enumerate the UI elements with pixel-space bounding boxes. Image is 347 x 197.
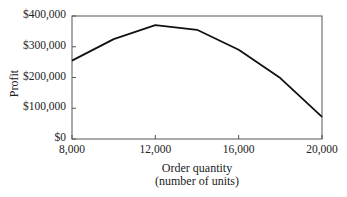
y-tick-label: $0: [55, 131, 67, 143]
y-axis-label: Profit: [7, 66, 22, 102]
x-tick-label: 20,000: [306, 143, 338, 155]
y-tick-label: $400,000: [23, 8, 66, 20]
x-tick-label: 12,000: [140, 143, 172, 155]
y-tick-label: $300,000: [23, 39, 66, 51]
profit-series-line: [72, 25, 322, 117]
y-tick-label: $100,000: [23, 100, 66, 112]
x-tick-label: 16,000: [223, 143, 255, 155]
plot-frame: [72, 16, 322, 139]
x-tick-label: 8,000: [59, 143, 85, 155]
y-tick-label: $200,000: [23, 70, 66, 82]
profit-line-chart: Profit $0$100,000$200,000$300,000$400,00…: [0, 0, 347, 197]
x-axis-label-line-2: (number of units): [155, 175, 239, 188]
x-axis-label: Order quantity (number of units): [155, 162, 239, 188]
